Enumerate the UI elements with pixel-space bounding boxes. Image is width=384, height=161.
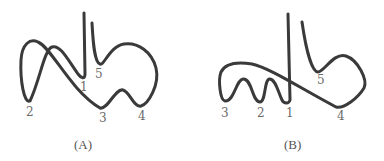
point-label-b-4: 4 (337, 109, 345, 123)
panel-b: 1 2 3 4 5 (B) (220, 14, 365, 152)
point-label-b-3: 3 (221, 106, 229, 120)
diagram-canvas: 1 2 3 4 5 (A) 1 2 3 4 5 (B) (0, 0, 384, 161)
panel-b-caption: (B) (284, 137, 301, 152)
point-label-a-5: 5 (95, 67, 103, 81)
panel-a-curve (21, 13, 157, 108)
panel-a: 1 2 3 4 5 (A) (21, 13, 157, 152)
point-label-a-4: 4 (138, 109, 146, 123)
panel-b-curve (220, 14, 365, 107)
point-label-a-1: 1 (80, 80, 88, 94)
point-label-a-2: 2 (26, 105, 34, 119)
diagram-figure: 1 2 3 4 5 (A) 1 2 3 4 5 (B) (0, 0, 384, 161)
point-label-b-2: 2 (257, 106, 265, 120)
point-label-b-1: 1 (286, 106, 294, 120)
point-label-a-3: 3 (99, 111, 107, 125)
panel-a-caption: (A) (74, 137, 92, 152)
point-label-b-5: 5 (317, 73, 325, 87)
